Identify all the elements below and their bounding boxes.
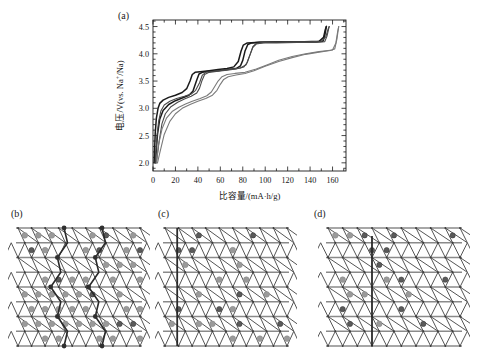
lattice-panel-b (8, 218, 150, 356)
lattice-vertex (430, 316, 432, 318)
lattice-diagonal-line (445, 331, 452, 346)
lattice-occupied-site (384, 277, 390, 283)
lattice-vertex (378, 271, 380, 273)
lattice-diagonal-line (335, 331, 342, 346)
lattice-diagonal-line (155, 243, 158, 258)
lattice-occupied-site (347, 292, 353, 298)
lattice-vertex (205, 227, 207, 229)
lattice-vertex (31, 257, 33, 259)
lattice-vertex (371, 227, 373, 229)
lattice-vertex (393, 330, 395, 332)
lattice-vertex (452, 242, 454, 244)
lattice-vertex (225, 301, 227, 303)
lattice-vertex (252, 271, 254, 273)
lattice-diagonal-line (409, 331, 416, 346)
lattice-diagonal-line (185, 302, 192, 317)
lattice-vertex (459, 316, 461, 318)
lattice-vertex (205, 316, 207, 318)
lattice-vertex (286, 345, 288, 347)
lattice-diagonal-line (267, 272, 274, 287)
lattice-vertex (444, 345, 446, 347)
lattice-vertex (364, 330, 366, 332)
lattice-diagonal-line (438, 331, 445, 346)
lattice-diagonal-line (18, 302, 25, 317)
lattice-vertex (259, 316, 261, 318)
lattice-occupied-site (333, 233, 339, 239)
lattice-vertex (437, 301, 439, 303)
domain-wall-node (48, 285, 53, 290)
lattice-vertex (105, 271, 107, 273)
lattice-diagonal-line (372, 302, 379, 317)
y-tick-label: 4.5 (139, 23, 149, 32)
lattice-vertex (191, 227, 193, 229)
lattice-occupied-site (76, 292, 82, 298)
lattice-occupied-site (347, 233, 353, 239)
lattice-diagonal-line (18, 243, 25, 258)
lattice-vertex (31, 227, 33, 229)
lattice-svg-c (155, 218, 297, 356)
lattice-occupied-site (230, 247, 236, 253)
lattice-diagonal-line (147, 331, 150, 346)
lattice-diagonal-line (219, 243, 226, 258)
lattice-diagonal-line (357, 243, 364, 258)
lattice-vertex (44, 227, 46, 229)
voltage-capacity-chart: 0204060801001201401602.02.53.03.54.04.5 … (110, 8, 360, 208)
lattice-vertex (400, 316, 402, 318)
lattice-vertex (17, 316, 19, 318)
lattice-diagonal-line (416, 272, 423, 287)
lattice-vertex (24, 330, 26, 332)
domain-wall-node (55, 255, 60, 260)
lattice-occupied-site (42, 336, 48, 342)
lattice-occupied-site (406, 292, 412, 298)
lattice-diagonal-line (233, 272, 240, 287)
lattice-occupied-site (42, 247, 48, 253)
lattice-panel-c (155, 218, 297, 356)
lattice-vertex (245, 286, 247, 288)
lattice-vertex (71, 345, 73, 347)
lattice-vertex (259, 257, 261, 259)
lattice-vertex (198, 242, 200, 244)
lattice-occupied-site (230, 336, 236, 342)
lattice-diagonal-line (185, 331, 192, 346)
lattice-occupied-site (42, 277, 48, 283)
x-tick-label: 140 (304, 176, 316, 185)
lattice-vertex (349, 301, 351, 303)
lattice-occupied-site (117, 321, 122, 326)
lattice-vertex (51, 271, 53, 273)
lattice-vertex (78, 330, 80, 332)
lattice-vertex (334, 330, 336, 332)
lattice-vertex (430, 286, 432, 288)
lattice-vertex (126, 286, 128, 288)
lattice-vertex (17, 227, 19, 229)
lattice-vertex (51, 330, 53, 332)
lattice-diagonal-line (212, 243, 219, 258)
lattice-vertex (327, 316, 329, 318)
lattice-vertex (266, 271, 268, 273)
lattice-vertex (85, 345, 87, 347)
lattice-vertex (112, 316, 114, 318)
lattice-diagonal-line (280, 302, 287, 317)
lattice-vertex (334, 271, 336, 273)
lattice-diagonal-line (267, 331, 274, 346)
lattice-vertex (279, 242, 281, 244)
lattice-vertex (184, 271, 186, 273)
y-tick-label: 4.0 (139, 50, 149, 59)
lattice-diagonal-line (280, 243, 287, 258)
lattice-vertex (232, 316, 234, 318)
lattice-diagonal-line (113, 243, 120, 258)
lattice-vertex (119, 330, 121, 332)
lattice-diagonal-line (113, 302, 120, 317)
lattice-occupied-site (36, 292, 42, 298)
lattice-occupied-site (83, 306, 89, 312)
lattice-vertex (225, 242, 227, 244)
lattice-diagonal-line (179, 272, 186, 287)
lattice-diagonal-line (318, 272, 321, 287)
lattice-vertex (452, 271, 454, 273)
x-tick-label: 80 (239, 176, 247, 185)
lattice-occupied-site (22, 292, 28, 298)
lattice-vertex (225, 330, 227, 332)
lattice-vertex (364, 271, 366, 273)
lattice-vertex (239, 330, 241, 332)
lattice-vertex (171, 330, 173, 332)
lattice-diagonal-line (287, 272, 294, 287)
